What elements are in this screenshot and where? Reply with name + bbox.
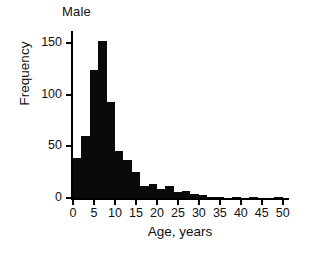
histogram-figure: Male Frequency 050100150 051015202530354… bbox=[0, 0, 310, 255]
plot-area bbox=[73, 33, 287, 198]
histogram-bar bbox=[216, 197, 224, 199]
histogram-bar bbox=[90, 70, 98, 198]
y-tick-label: 50 bbox=[22, 138, 62, 152]
histogram-bar bbox=[157, 189, 165, 198]
histogram-bar bbox=[123, 160, 131, 198]
histogram-bar bbox=[182, 191, 190, 198]
x-tick-mark bbox=[240, 200, 242, 205]
y-tick-label: 150 bbox=[22, 35, 62, 49]
x-axis-line bbox=[71, 198, 289, 200]
x-tick-mark bbox=[177, 200, 179, 205]
x-tick-mark bbox=[219, 200, 221, 205]
histogram-bar bbox=[190, 194, 198, 198]
histogram-bar bbox=[199, 195, 207, 198]
histogram-bar bbox=[207, 197, 215, 199]
x-tick-mark bbox=[156, 200, 158, 205]
y-tick-mark bbox=[66, 145, 71, 147]
y-tick-label: 100 bbox=[22, 87, 62, 101]
histogram-bar bbox=[98, 41, 106, 198]
x-tick-mark bbox=[282, 200, 284, 205]
histogram-bar bbox=[274, 197, 282, 199]
y-axis-label: Frequency bbox=[17, 14, 32, 134]
histogram-bar bbox=[73, 158, 81, 198]
histogram-bar bbox=[140, 186, 148, 198]
y-tick-mark bbox=[66, 42, 71, 44]
histogram-bar bbox=[174, 192, 182, 198]
x-axis-label: Age, years bbox=[73, 224, 287, 239]
x-tick-mark bbox=[261, 200, 263, 205]
x-tick-label: 50 bbox=[270, 206, 296, 220]
y-tick-mark bbox=[66, 197, 71, 199]
histogram-bar bbox=[81, 136, 89, 198]
histogram-bar bbox=[232, 197, 240, 199]
x-tick-mark bbox=[93, 200, 95, 205]
x-tick-mark bbox=[135, 200, 137, 205]
x-tick-mark bbox=[198, 200, 200, 205]
histogram-bar bbox=[132, 172, 140, 198]
x-tick-mark bbox=[72, 200, 74, 205]
histogram-bar bbox=[165, 186, 173, 198]
histogram-bar bbox=[149, 184, 157, 198]
histogram-bar bbox=[107, 102, 115, 198]
y-tick-label: 0 bbox=[22, 190, 62, 204]
histogram-bar bbox=[115, 151, 123, 198]
y-tick-mark bbox=[66, 94, 71, 96]
x-tick-mark bbox=[114, 200, 116, 205]
chart-title: Male bbox=[62, 4, 91, 19]
histogram-bar bbox=[249, 197, 257, 199]
